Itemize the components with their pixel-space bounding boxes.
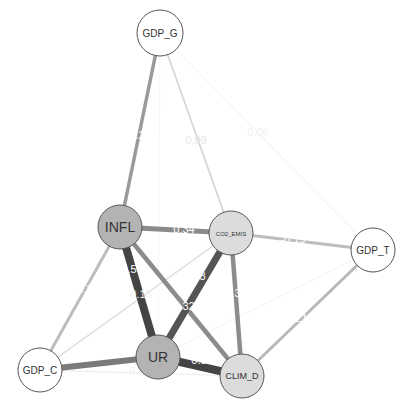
edge-weight-label: 0.32 (225, 287, 246, 299)
edge-weight-label: 0.32 (173, 300, 194, 312)
node-label: GDP_G (142, 28, 177, 39)
edge-weight-label: -0.2 (74, 283, 93, 295)
node-label: CLIM_D (225, 371, 259, 381)
node-gdp-g: GDP_G (137, 10, 183, 56)
node-label: GDP_T (356, 245, 389, 256)
node-gdp-c: GDP_C (18, 348, 62, 392)
node-label: INFL (105, 219, 136, 235)
node-label: GDP_C (23, 365, 57, 376)
edge-weight-label: 0.56 (121, 263, 142, 275)
node-clim-d: CLIM_D (220, 354, 264, 398)
node-ur: UR (136, 335, 180, 379)
edge-labels-layer: 0.060.060.150.09-0.2-0.190.210.220.320.3… (74, 126, 308, 377)
network-graph: 0.060.060.150.09-0.2-0.190.210.220.320.3… (0, 0, 404, 407)
edge-weight-label: 0.21 (286, 312, 307, 324)
edge-weight-label: 0.59 (191, 354, 212, 366)
edges-layer (40, 33, 373, 376)
edge-weight-label: 0.06 (247, 126, 268, 138)
node-infl: INFL (98, 205, 142, 249)
edge-weight-label: 0.34 (173, 223, 194, 235)
edge-weight-label: 0.09 (185, 134, 206, 146)
edge-weight-label: 0.22 (129, 129, 150, 141)
node-label: UR (148, 349, 168, 365)
node-label: CO2_EMIS (216, 231, 246, 237)
edge-gdp-g-ur (158, 33, 160, 357)
node-co2-emis: CO2_EMIS (209, 211, 253, 255)
nodes-layer: GDP_GINFLCO2_EMISGDP_TGDP_CURCLIM_D (18, 10, 395, 398)
edge-weight-label: 0.48 (184, 270, 205, 282)
edge-co2-emis-gdp-c (40, 233, 231, 370)
edge-weight-label: -0.41 (87, 343, 112, 355)
node-gdp-t: GDP_T (351, 228, 395, 272)
edge-weight-label: -0.19 (280, 233, 305, 245)
edge-weight-label: 0.15 (130, 288, 151, 300)
